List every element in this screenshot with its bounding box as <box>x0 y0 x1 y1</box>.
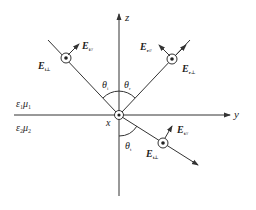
reflected-perp-label: Er⊥ <box>181 63 196 75</box>
z-axis-label: z <box>124 11 130 23</box>
y-axis-label: y <box>233 108 239 120</box>
theta-t-label: θt <box>125 140 132 152</box>
theta-r-label: θr <box>124 79 131 91</box>
transmitted-angle-arc <box>119 126 137 136</box>
oblique-incidence-diagram: z y x ε1μ1 ε2μ2 Ei// Ei⊥ Er// Er⊥ Et// E… <box>0 0 256 210</box>
medium-2-label: ε2μ2 <box>16 122 31 134</box>
reflected-parallel-arrow <box>159 45 170 56</box>
x-axis-label: x <box>105 117 111 128</box>
incident-parallel-label: Ei// <box>81 40 93 52</box>
reflected-parallel-label: Er// <box>139 41 152 53</box>
transmitted-parallel-arrow <box>165 126 172 138</box>
medium-1-label: ε1μ1 <box>16 98 31 110</box>
transmitted-perp-label: Et⊥ <box>145 148 159 160</box>
incident-perp-label: Ei⊥ <box>37 60 51 72</box>
theta-i-label: θi <box>102 79 109 91</box>
reflected-direction-arrow <box>175 45 186 56</box>
transmitted-parallel-label: Et// <box>176 124 189 136</box>
incident-parallel-arrow <box>68 44 79 55</box>
